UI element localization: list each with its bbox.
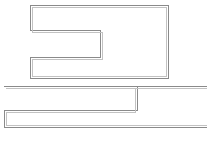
line-drawing-svg (0, 0, 207, 147)
drawing-canvas (0, 0, 207, 147)
